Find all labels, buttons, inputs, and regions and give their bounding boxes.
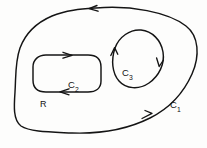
region-label-r: R: [40, 100, 47, 109]
curve-label-c1-base: C: [170, 99, 177, 110]
curve-diagram-svg: [0, 0, 207, 148]
curve-label-c2-base: C: [68, 79, 75, 90]
curve-label-c3-base: C: [122, 67, 129, 78]
inner-curve-c2-path: [33, 55, 101, 92]
curve-label-c2-subscript: 2: [75, 86, 79, 93]
region-label-text: R: [40, 99, 47, 109]
curve-label-c1: C1: [170, 100, 181, 113]
outer-curve-c1-path: [14, 7, 197, 133]
curve-label-c2: C2: [68, 80, 79, 93]
curve-label-c3: C3: [122, 68, 133, 81]
curve-label-c1-subscript: 1: [177, 106, 181, 113]
curve-label-c3-subscript: 3: [129, 74, 133, 81]
figure-canvas: R C2 C3 C1: [0, 0, 207, 148]
inner-curve-c3-path: [113, 30, 164, 88]
